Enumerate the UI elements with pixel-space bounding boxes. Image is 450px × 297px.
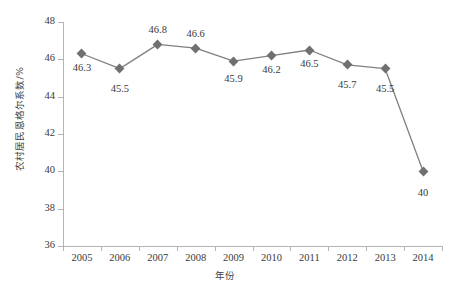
data-point-label: 40 xyxy=(401,187,445,198)
data-point-marker xyxy=(191,43,201,53)
y-axis-tick xyxy=(58,22,63,23)
data-point-marker xyxy=(229,56,239,66)
x-axis-title: 年份 xyxy=(0,268,450,282)
y-axis-tick-label: 40 xyxy=(15,165,55,175)
data-point-marker xyxy=(418,166,428,176)
x-axis-tick xyxy=(366,246,367,251)
data-point-marker xyxy=(77,49,87,59)
x-axis-tick-label: 2014 xyxy=(400,252,446,263)
data-point-label: 46.6 xyxy=(174,28,218,39)
y-axis-tick xyxy=(58,209,63,210)
x-axis-tick xyxy=(253,246,254,251)
data-point-label: 45.9 xyxy=(212,73,256,84)
data-point-marker xyxy=(342,60,352,70)
data-point-marker xyxy=(115,64,125,74)
data-point-label: 45.5 xyxy=(363,83,407,94)
x-axis-tick xyxy=(442,246,443,251)
data-point-label: 46.5 xyxy=(287,58,331,69)
x-axis-tick xyxy=(404,246,405,251)
data-point-marker xyxy=(266,51,276,61)
y-axis-tick xyxy=(58,59,63,60)
y-axis-tick-label: 46 xyxy=(15,53,55,63)
y-axis-tick xyxy=(58,134,63,135)
data-point-label: 46.3 xyxy=(60,62,104,73)
data-point-marker xyxy=(304,45,314,55)
y-axis-tick-label: 42 xyxy=(15,128,55,138)
x-axis-tick xyxy=(290,246,291,251)
y-axis-tick-label: 38 xyxy=(15,203,55,213)
y-axis-title: 农村居民恩格尔系数/% xyxy=(12,64,26,174)
line-chart: 农村居民恩格尔系数/% 48464442403836 2005200620072… xyxy=(0,0,450,297)
y-axis-tick xyxy=(58,97,63,98)
y-axis-tick-label: 44 xyxy=(15,91,55,101)
x-axis-tick xyxy=(63,246,64,251)
y-axis-tick-label: 48 xyxy=(15,16,55,26)
data-point-marker xyxy=(380,64,390,74)
data-point-label: 45.5 xyxy=(98,83,142,94)
x-axis-tick xyxy=(215,246,216,251)
x-axis-tick xyxy=(328,246,329,251)
x-axis-tick xyxy=(139,246,140,251)
y-axis-line xyxy=(63,22,64,247)
x-axis-tick xyxy=(177,246,178,251)
y-axis-tick xyxy=(58,171,63,172)
data-point-marker xyxy=(153,39,163,49)
y-axis-tick-label: 36 xyxy=(15,240,55,250)
x-axis-tick xyxy=(101,246,102,251)
